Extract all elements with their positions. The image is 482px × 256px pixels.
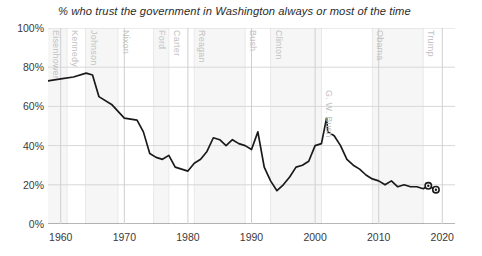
y-tick-label: 60% bbox=[4, 100, 44, 112]
x-tick-label: 1990 bbox=[240, 231, 263, 243]
president-band bbox=[271, 28, 322, 224]
trust-in-government-chart: % who trust the government in Washington… bbox=[0, 0, 482, 256]
president-band bbox=[372, 28, 423, 224]
y-tick-label: 100% bbox=[4, 22, 44, 34]
chart-title: % who trust the government in Washington… bbox=[58, 5, 411, 17]
y-tick-label: 40% bbox=[4, 140, 44, 152]
president-band bbox=[48, 28, 67, 224]
x-tick-label: 1980 bbox=[176, 231, 199, 243]
x-tick-label: 1960 bbox=[49, 231, 72, 243]
plot-area: EisenhowerKennedyJohnsonNixonFordCarterR… bbox=[48, 28, 455, 224]
x-tick-label: 2020 bbox=[431, 231, 454, 243]
y-tick-label: 0% bbox=[4, 218, 44, 230]
x-tick-label: 2010 bbox=[367, 231, 390, 243]
x-tick-label: 2000 bbox=[303, 231, 326, 243]
president-band bbox=[194, 28, 245, 224]
data-point-marker-core bbox=[427, 185, 429, 187]
line-chart-svg bbox=[48, 28, 455, 224]
president-band bbox=[86, 28, 118, 224]
y-axis: 0%20%40%60%80%100% bbox=[0, 0, 44, 256]
x-tick-label: 1970 bbox=[113, 231, 136, 243]
y-tick-label: 20% bbox=[4, 179, 44, 191]
y-tick-label: 80% bbox=[4, 61, 44, 73]
data-point-marker-core bbox=[435, 189, 437, 191]
president-band bbox=[154, 28, 169, 224]
